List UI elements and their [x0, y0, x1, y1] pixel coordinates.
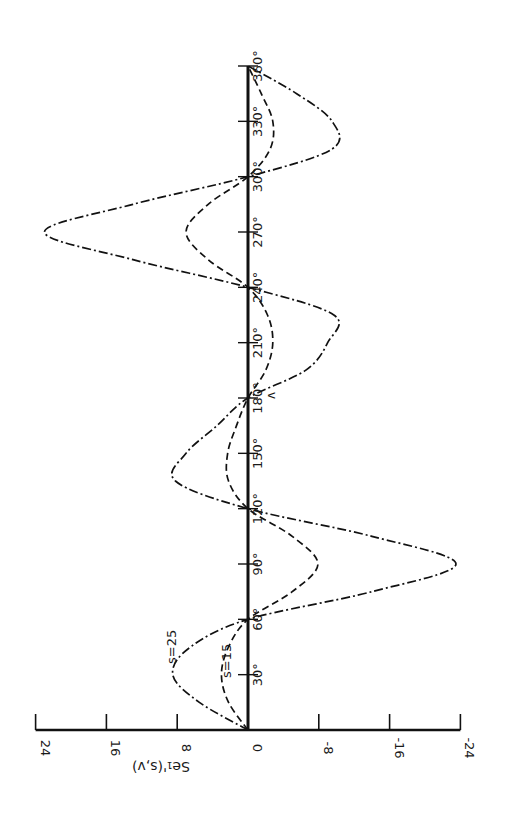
value-tick-label: -16 — [392, 737, 407, 758]
v-tick-label: 60° — [250, 608, 265, 631]
v-tick-label: 270° — [250, 216, 265, 247]
v-tick-label: 150° — [250, 438, 265, 469]
v-tick-label: 240° — [250, 272, 265, 303]
y-axis-label: Se₁'(s,v) — [132, 759, 190, 775]
annotation-s25: s=25 — [164, 630, 179, 664]
v-tick-label: 330° — [250, 106, 265, 137]
annotation-s15: s=15 — [219, 644, 234, 678]
v-tick-label: 360° — [250, 50, 265, 81]
v-tick-label: 300° — [250, 161, 265, 192]
value-tick-label: 8 — [179, 744, 194, 752]
value-tick-label: -8 — [321, 742, 336, 755]
v-tick-label: 120° — [250, 493, 265, 524]
value-tick-label: 0 — [250, 744, 265, 752]
chart: 241680-8-16-2430°60°90°120°150°180°210°2… — [0, 0, 510, 816]
v-tick-label: 180° — [250, 382, 265, 413]
value-tick-label: -24 — [462, 737, 477, 758]
x-axis-label: v — [265, 392, 279, 399]
value-tick-label: 16 — [108, 740, 123, 757]
v-tick-label: 90° — [250, 552, 265, 575]
v-tick-label: 30° — [250, 663, 265, 686]
v-tick-label: 210° — [250, 327, 265, 358]
value-tick-label: 24 — [38, 740, 53, 757]
tick-labels: 241680-8-16-2430°60°90°120°150°180°210°2… — [38, 50, 478, 758]
